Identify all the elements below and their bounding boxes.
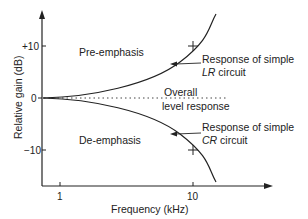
x-tick-label-10: 10 [187,191,198,202]
cross-marker-icon [188,145,198,155]
x-axis-title: Frequency (kHz) [111,203,189,215]
y-axis-arrow-icon [39,10,45,19]
lr-rest: circuit [215,66,245,78]
chart-canvas [0,0,308,219]
y-axis-title: Relative gain (dB) [12,56,24,139]
cr-pointer-arrow-icon [170,132,177,137]
x-tick-label-1: 1 [57,191,63,202]
cr-rest: circuit [217,134,247,146]
cr-annotation-line1: Response of simple [202,121,294,133]
overall-annotation-line2: level response [162,100,230,112]
lr-italic: LR [202,66,215,78]
pre-emphasis-label: Pre-emphasis [79,46,144,58]
lr-pointer-arrow-icon [170,62,177,67]
y-tick-label-plus10: +10 [22,41,39,52]
y-tick-label-minus10: −10 [24,145,41,156]
overall-annotation-line1: Overall [164,86,197,98]
y-tick-label-0: 0 [31,93,37,104]
x-axis-arrow-icon [264,183,273,189]
lr-pointer-line [176,63,201,64]
cr-annotation-line2: CR circuit [202,134,248,146]
lr-annotation-line1: Response of simple [202,53,294,65]
lr-annotation-line2: LR circuit [202,66,246,78]
de-emphasis-label: De-emphasis [79,134,141,146]
cross-marker-icon [188,41,198,51]
cr-italic: CR [202,134,217,146]
